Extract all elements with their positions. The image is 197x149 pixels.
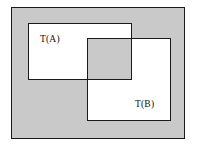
set-diagram-figure: T(A) T(B): [0, 0, 197, 149]
set-intersection-region: [87, 38, 132, 80]
set-label-b: T(B): [135, 100, 154, 110]
set-label-a: T(A): [40, 35, 60, 45]
